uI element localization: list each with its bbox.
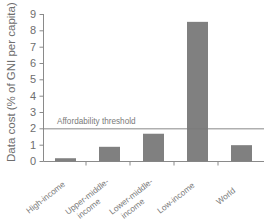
y-axis-title: Data cost (% of GNI per capita) — [5, 2, 17, 162]
y-tick-label-7: 7 — [30, 41, 36, 53]
bar-chart: Data cost (% of GNI per capita) 0 1 2 3 … — [0, 0, 273, 222]
y-tick-label-1: 1 — [30, 139, 36, 151]
y-tick-label-6: 6 — [30, 57, 36, 69]
x-axis-label-low-income: Low-income — [155, 180, 197, 216]
y-tick-label-8: 8 — [30, 24, 36, 36]
x-label-line-3-0: Low-income — [155, 180, 197, 216]
y-tick-label-0: 0 — [30, 155, 36, 167]
x-axis-label-high-income: High-income — [24, 179, 67, 216]
x-label-line-4-0: World — [214, 185, 237, 206]
bar-high-income — [55, 158, 76, 161]
bar-lower-middle-income — [143, 134, 164, 162]
x-axis-label-lower-middle-income: Lower-middle- income — [107, 176, 155, 220]
chart-container: Data cost (% of GNI per capita) 0 1 2 3 … — [0, 0, 273, 222]
y-tick-label-3: 3 — [30, 106, 36, 118]
affordability-threshold-label: Affordability threshold — [57, 117, 136, 126]
bar-world — [231, 145, 252, 161]
y-tick-label-4: 4 — [30, 90, 36, 102]
x-label-line-0-0: High-income — [24, 179, 67, 216]
bar-upper-middle-income — [99, 147, 120, 162]
bar-low-income — [187, 22, 208, 162]
y-tick-label-5: 5 — [30, 73, 36, 85]
y-tick-label-9: 9 — [30, 8, 36, 20]
x-axis-label-upper-middle-income: Upper-middle- income — [63, 176, 111, 220]
x-axis-label-world: World — [214, 185, 237, 206]
y-tick-label-2: 2 — [30, 122, 36, 134]
